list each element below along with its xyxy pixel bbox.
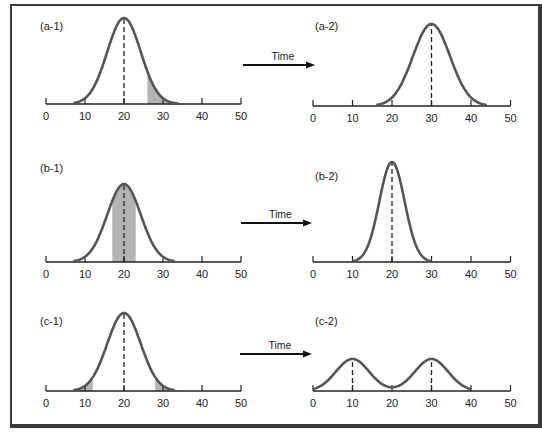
tick-label: 40	[465, 112, 477, 124]
tick-label: 50	[504, 112, 516, 124]
tick-label: 10	[79, 397, 91, 409]
panel-c-1: 01020304050(c-1)	[40, 313, 247, 409]
tick-label: 20	[118, 397, 130, 409]
tick-label: 30	[157, 268, 169, 280]
tick-label: 10	[79, 268, 91, 280]
time-arrow: Time	[241, 208, 312, 227]
panel-label: (b-2)	[315, 170, 338, 182]
selection-diagram: 01020304050(a-1)01020304050(a-2)01020304…	[0, 0, 542, 438]
panel-b-1: 01020304050(b-1)	[40, 162, 247, 280]
distribution-curve	[73, 18, 178, 104]
panel-label: (a-1)	[40, 20, 63, 32]
tick-label: 0	[310, 268, 316, 280]
tick-label: 10	[79, 110, 91, 122]
tick-label: 30	[425, 112, 437, 124]
tick-label: 0	[43, 268, 49, 280]
tick-label: 50	[235, 397, 247, 409]
time-arrow: Time	[240, 339, 312, 358]
tick-label: 20	[386, 112, 398, 124]
tick-label: 30	[425, 397, 437, 409]
panel-a-2: 01020304050(a-2)	[310, 20, 517, 124]
tick-label: 30	[157, 110, 169, 122]
arrow-label: Time	[269, 208, 292, 220]
tick-label: 0	[310, 397, 316, 409]
tick-label: 50	[504, 397, 516, 409]
tick-label: 40	[465, 397, 477, 409]
tick-label: 40	[196, 397, 208, 409]
time-arrow: Time	[243, 50, 315, 69]
tick-label: 20	[386, 268, 398, 280]
panel-b-2: 01020304050(b-2)	[310, 162, 517, 280]
tick-label: 10	[346, 112, 358, 124]
distribution-curve	[313, 359, 471, 389]
tick-label: 20	[118, 110, 130, 122]
panel-label: (a-2)	[315, 20, 338, 32]
panel-a-1: 01020304050(a-1)	[40, 18, 247, 122]
tick-label: 10	[346, 268, 358, 280]
tick-label: 40	[196, 110, 208, 122]
tick-label: 10	[346, 397, 358, 409]
tick-label: 50	[235, 110, 247, 122]
arrowhead-icon	[303, 351, 312, 358]
panel-c-2: 01020304050(c-2)	[310, 315, 517, 409]
tick-label: 20	[118, 268, 130, 280]
arrowhead-icon	[303, 220, 312, 227]
tick-label: 50	[235, 268, 247, 280]
arrowhead-icon	[306, 62, 315, 69]
panel-label: (c-1)	[40, 315, 63, 327]
tick-label: 0	[310, 112, 316, 124]
arrow-label: Time	[272, 50, 295, 62]
tick-label: 0	[43, 110, 49, 122]
tick-label: 0	[43, 397, 49, 409]
arrow-label: Time	[269, 339, 292, 351]
tick-label: 20	[386, 397, 398, 409]
tick-label: 30	[425, 268, 437, 280]
tick-label: 50	[504, 268, 516, 280]
panel-label: (b-1)	[40, 162, 63, 174]
panel-label: (c-2)	[315, 315, 338, 327]
tick-label: 40	[196, 268, 208, 280]
tick-label: 40	[465, 268, 477, 280]
tick-label: 30	[157, 397, 169, 409]
